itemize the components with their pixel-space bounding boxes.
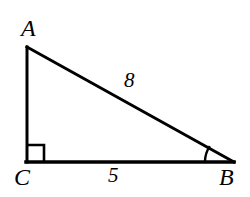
vertex-label-c: C bbox=[14, 165, 30, 189]
triangle-drawing bbox=[0, 0, 250, 197]
vertex-label-a: A bbox=[21, 16, 36, 40]
angle-arc-at-b-icon bbox=[205, 146, 210, 162]
right-angle-square-icon bbox=[27, 145, 44, 162]
side-length-label-hypotenuse: 8 bbox=[124, 70, 135, 91]
side-ab-hypotenuse-line bbox=[27, 47, 234, 162]
side-length-label-base: 5 bbox=[108, 165, 119, 186]
vertex-label-b: B bbox=[219, 165, 234, 189]
right-triangle-figure: A C B 8 5 bbox=[0, 0, 250, 197]
